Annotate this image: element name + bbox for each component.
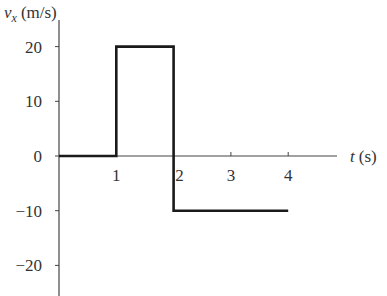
x-tick-label: 1 (112, 166, 121, 185)
x-ticks: 1234 (112, 152, 293, 185)
y-tick-label: −10 (15, 202, 42, 221)
x-axis-label: t(s) (350, 147, 377, 166)
y-tick-label: 10 (25, 92, 42, 111)
x-tick-label: 3 (227, 166, 236, 185)
y-tick-label: 20 (25, 38, 42, 57)
y-tick-label: 0 (34, 147, 43, 166)
y-ticks: 20100−10−20 (15, 38, 59, 276)
x-tick-label: 4 (284, 166, 293, 185)
y-axis-label: vx(m/s) (4, 3, 57, 25)
x-tick-label: 2 (175, 166, 184, 185)
y-tick-label: −20 (15, 256, 42, 275)
velocity-series-line (59, 47, 288, 211)
velocity-time-chart: 20100−10−20 1234 vx(m/s) t(s) (0, 0, 387, 296)
